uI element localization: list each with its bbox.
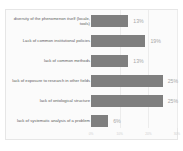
bar <box>91 95 163 107</box>
bar-row: lack of exposure to research in other fi… <box>6 71 177 91</box>
plot-area: diversity of the phenomenon itself (loca… <box>6 10 177 132</box>
category-label: lack of common methods <box>12 58 90 63</box>
bar <box>91 15 128 27</box>
bar-row: lack of ontological structure25% <box>6 91 177 111</box>
bar-value-label: 25% <box>168 78 178 84</box>
bar <box>91 115 108 127</box>
gridline <box>177 10 178 128</box>
category-label: lack of systematic analysis of a problem <box>12 118 90 123</box>
x-tick-label: 10% <box>116 132 122 136</box>
x-tick-label: 30% <box>174 132 180 136</box>
bar <box>91 75 163 87</box>
x-axis-tick-labels: 0%10%20%30% <box>6 132 177 142</box>
bar <box>91 55 128 67</box>
x-tick-label: 20% <box>145 132 151 136</box>
bar-row: Lack of common institutional policies19% <box>6 31 177 51</box>
bar-chart-figure: diversity of the phenomenon itself (loca… <box>0 0 183 151</box>
category-label: lack of ontological structure <box>12 98 90 103</box>
bar-row: diversity of the phenomenon itself (loca… <box>6 11 177 31</box>
bar-value-label: 13% <box>133 18 143 24</box>
bar-value-label: 6% <box>113 118 121 124</box>
bars-container: diversity of the phenomenon itself (loca… <box>6 10 177 132</box>
x-tick-label: 0% <box>89 132 94 136</box>
bar <box>91 35 145 47</box>
category-label: lack of exposure to research in other fi… <box>12 78 90 83</box>
bar-row: lack of systematic analysis of a problem… <box>6 111 177 131</box>
bar-value-label: 13% <box>133 58 143 64</box>
bar-value-label: 25% <box>168 98 178 104</box>
category-label: diversity of the phenomenon itself (loca… <box>12 16 90 26</box>
bar-value-label: 19% <box>150 38 160 44</box>
bar-row: lack of common methods13% <box>6 51 177 71</box>
category-label: Lack of common institutional policies <box>12 38 90 43</box>
